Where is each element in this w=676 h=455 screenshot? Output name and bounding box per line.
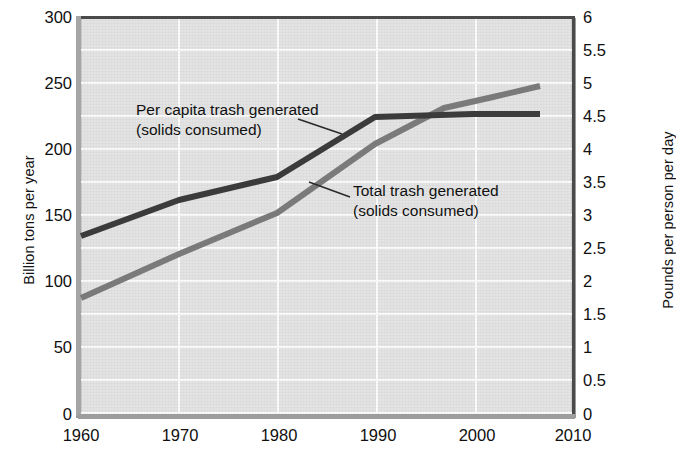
y2-axis-tick-label: 4 [583,141,592,158]
x-axis-tick-label: 1970 [140,427,220,444]
plot-border-right [572,16,575,417]
gridline-vertical [178,18,180,414]
annotation-total-trash: Total trash generated (solids consumed) [353,181,499,221]
gridline-horizontal [81,346,572,348]
x-axis-tick-label: 2000 [437,427,517,444]
y2-axis-tick-label: 0 [583,406,592,423]
y-axis-tick-label: 0 [63,406,72,423]
y-axis-line [76,16,81,416]
annotation-total-line1: Total trash generated [353,181,499,201]
y2-axis-tick-label: 2.5 [583,240,606,257]
gridline-horizontal [81,49,572,51]
annotation-per-capita-line2: (solids consumed) [136,120,319,140]
y2-axis-title: Pounds per person per day [660,80,676,360]
plot-border-top [81,16,574,19]
x-axis-tick-label: 2010 [533,427,613,444]
y-axis-tick-label: 50 [54,339,72,356]
x-axis-line [78,414,575,419]
y2-axis-tick-label: 3.5 [583,174,606,191]
annotation-per-capita-line1: Per capita trash generated [136,100,319,120]
y2-axis-tick-label: 2 [583,273,592,290]
gridline-horizontal [81,82,572,84]
gridline-horizontal [81,280,572,282]
y2-axis-tick-label: 1.5 [583,306,606,323]
y-axis-title: Billion tons per year [21,95,37,345]
annotation-total-line2: (solids consumed) [353,201,499,221]
gridline-vertical [277,18,279,414]
gridline-horizontal [81,379,572,381]
y2-axis-tick-label: 3 [583,207,592,224]
x-axis-tick-label: 1960 [41,427,121,444]
y2-axis-tick-label: 5 [583,75,592,92]
y2-axis-tick-label: 1 [583,339,592,356]
y-axis-tick-label: 200 [44,141,72,158]
y2-axis-tick-label: 0.5 [583,372,606,389]
y-axis-tick-label: 300 [44,9,72,26]
annotation-per-capita: Per capita trash generated (solids consu… [136,100,319,140]
y-axis-tick-label: 250 [44,75,72,92]
gridline-horizontal [81,148,572,150]
x-axis-tick-label: 1990 [338,427,418,444]
x-axis-tick-label: 1980 [239,427,319,444]
y2-axis-tick-label: 4.5 [583,108,606,125]
gridline-horizontal [81,247,572,249]
y-axis-tick-label: 100 [44,273,72,290]
y-axis-tick-label: 150 [44,207,72,224]
gridline-horizontal [81,313,572,315]
y2-axis-tick-label: 5.5 [583,42,606,59]
y2-axis-tick-label: 6 [583,9,592,26]
